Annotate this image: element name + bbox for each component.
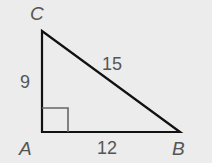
right-angle-marker bbox=[42, 108, 68, 132]
side-label-ab: 12 bbox=[97, 138, 117, 158]
side-label-ac: 9 bbox=[20, 72, 30, 92]
triangle-diagram: C A B 9 15 12 bbox=[0, 0, 212, 163]
vertex-label-c: C bbox=[30, 3, 44, 24]
side-label-bc: 15 bbox=[102, 54, 122, 74]
vertex-label-b: B bbox=[172, 138, 185, 159]
triangle-abc bbox=[42, 31, 180, 132]
vertex-label-a: A bbox=[18, 138, 32, 159]
